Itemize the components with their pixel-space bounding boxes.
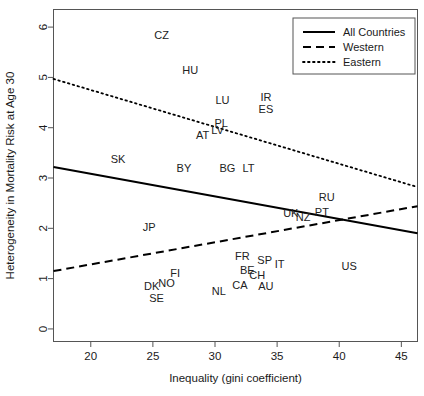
x-axis-title: Inequality (gini coefficient)	[169, 372, 302, 384]
legend-label: All Countries	[343, 26, 406, 38]
x-tick-label: 30	[209, 350, 222, 362]
x-tick-label: 45	[395, 350, 408, 362]
x-axis: 202530354045	[84, 342, 407, 362]
data-point-label: RU	[319, 191, 335, 203]
x-tick-label: 40	[333, 350, 346, 362]
data-point-label: ES	[259, 103, 274, 115]
data-point-label: IT	[275, 258, 285, 270]
x-tick-label: 25	[146, 350, 159, 362]
y-tick-label: 1	[38, 275, 50, 281]
y-tick-label: 0	[38, 326, 50, 332]
data-point-label: US	[342, 260, 357, 272]
data-point-label: SP	[257, 254, 272, 266]
data-point-label: BY	[177, 162, 192, 174]
y-axis: 0123456	[38, 24, 54, 332]
legend: All CountriesWesternEastern	[293, 18, 415, 74]
data-point-label: NL	[212, 285, 226, 297]
x-tick-label: 20	[84, 350, 97, 362]
data-point-label: PT	[315, 206, 329, 218]
data-point-label: JP	[143, 221, 156, 233]
data-point-label: LU	[215, 94, 229, 106]
y-tick-label: 2	[38, 225, 50, 231]
data-point-label: DK	[144, 280, 160, 292]
trend-line-eastern	[54, 79, 418, 187]
x-tick-label: 35	[271, 350, 284, 362]
scatter-plot: 2025303540450123456Inequality (gini coef…	[0, 0, 424, 396]
data-point-label: NZ	[296, 211, 311, 223]
data-point-label: BG	[219, 162, 235, 174]
data-point-label: FR	[235, 250, 250, 262]
trend-line-all-countries	[54, 167, 418, 233]
y-axis-title: Heterogeneity in Mortality Risk at Age 3…	[4, 72, 16, 280]
y-tick-label: 6	[38, 24, 50, 30]
data-point-label: HU	[182, 64, 198, 76]
data-point-label: IR	[260, 91, 271, 103]
chart-container: 2025303540450123456Inequality (gini coef…	[0, 0, 424, 396]
data-point-label: CZ	[154, 29, 169, 41]
data-point-label: SE	[149, 292, 164, 304]
data-point-label: AU	[258, 280, 273, 292]
y-tick-label: 5	[38, 74, 50, 80]
legend-label: Western	[343, 41, 384, 53]
data-point-label: LV	[211, 124, 224, 136]
y-tick-label: 4	[38, 124, 50, 131]
legend-label: Eastern	[343, 56, 381, 68]
y-tick-label: 3	[38, 175, 50, 181]
data-point-label: NO	[158, 277, 175, 289]
data-point-label: AT	[196, 129, 210, 141]
data-point-label: SK	[111, 153, 126, 165]
data-point-label: LT	[243, 162, 255, 174]
data-point-label: CA	[232, 279, 248, 291]
trend-lines	[54, 79, 418, 271]
